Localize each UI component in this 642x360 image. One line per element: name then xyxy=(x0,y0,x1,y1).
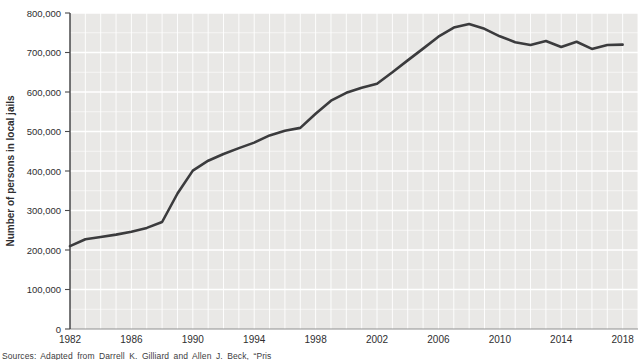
y-tick-label: 100,000 xyxy=(27,284,61,295)
y-axis-title: Number of persons in local jails xyxy=(5,95,16,247)
x-tick-label: 1986 xyxy=(120,334,143,345)
y-tick-label: 200,000 xyxy=(27,245,61,256)
source-note: Sources: Adapted from Darrell K. Gilliar… xyxy=(2,351,422,360)
x-tick-label: 2002 xyxy=(366,334,389,345)
x-tick-label: 1998 xyxy=(304,334,327,345)
x-tick-label: 2014 xyxy=(550,334,573,345)
x-tick-label: 2006 xyxy=(427,334,450,345)
y-tick-label: 800,000 xyxy=(27,8,61,19)
x-tick-label: 1994 xyxy=(243,334,266,345)
jail-population-figure: 0100,000200,000300,000400,000500,000600,… xyxy=(0,0,642,360)
x-tick-label: 2010 xyxy=(489,334,512,345)
y-tick-label: 700,000 xyxy=(27,47,61,58)
x-tick-label: 1990 xyxy=(182,334,205,345)
x-tick-label: 2018 xyxy=(612,334,635,345)
y-tick-label: 0 xyxy=(56,324,61,335)
jail-population-line-chart: 0100,000200,000300,000400,000500,000600,… xyxy=(0,0,642,360)
y-tick-label: 300,000 xyxy=(27,205,61,216)
y-tick-label: 500,000 xyxy=(27,126,61,137)
x-tick-label: 1982 xyxy=(59,334,82,345)
y-tick-label: 400,000 xyxy=(27,166,61,177)
y-tick-label: 600,000 xyxy=(27,87,61,98)
